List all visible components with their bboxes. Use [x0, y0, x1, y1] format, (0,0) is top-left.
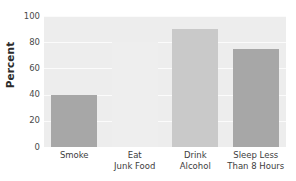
x-axis-tick-label: Sleep LessThan 8 Hours: [226, 150, 287, 172]
x-axis-tick-label-line: Alcohol: [165, 161, 226, 172]
bar-series: [44, 16, 286, 147]
plot-area: [44, 16, 286, 147]
x-axis-tick-label-line: Sleep Less: [233, 150, 278, 160]
bar: [172, 29, 218, 147]
x-axis-tick-label: Smoke: [44, 150, 105, 161]
y-axis-tick-label: 100: [8, 12, 40, 21]
bar: [112, 42, 158, 147]
x-axis-tick-label-line: Eat: [128, 150, 142, 160]
y-axis-tick-label: 80: [8, 38, 40, 47]
y-axis-tick-label: 60: [8, 64, 40, 73]
y-axis-tick-labels: 020406080100: [8, 0, 40, 181]
chart-title: [44, 0, 286, 3]
y-axis-tick-label: 20: [8, 116, 40, 125]
y-axis-tick-label: 40: [8, 90, 40, 99]
x-axis-tick-label-line: Drink: [184, 150, 207, 160]
y-axis-tick-label: 0: [8, 143, 40, 152]
bar: [233, 49, 279, 147]
x-axis-tick-labels: SmokeEatJunk FoodDrinkAlcoholSleep LessT…: [44, 150, 286, 181]
x-axis-tick-label-line: Than 8 Hours: [226, 161, 287, 172]
x-axis-tick-label-line: Smoke: [60, 150, 89, 160]
bar: [51, 95, 97, 147]
bar-chart: Percent 020406080100 SmokeEatJunk FoodDr…: [0, 0, 296, 181]
x-axis-tick-label: DrinkAlcohol: [165, 150, 226, 172]
x-axis-tick-label-line: Junk Food: [105, 161, 166, 172]
x-axis-tick-label: EatJunk Food: [105, 150, 166, 172]
